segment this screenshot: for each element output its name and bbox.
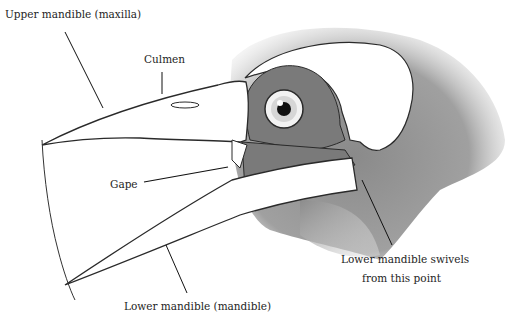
leader-lower-mandible	[166, 245, 187, 293]
upper-mandible	[42, 81, 248, 145]
leader-gape	[144, 167, 228, 182]
bird-skull-illustration	[0, 0, 519, 332]
label-swivel-line1: Lower mandible swivels	[341, 251, 469, 268]
label-culmen: Culmen	[144, 51, 185, 68]
label-upper-mandible: Upper mandible (maxilla)	[5, 6, 141, 23]
label-swivel-line2: from this point	[362, 270, 441, 287]
label-gape: Gape	[110, 176, 138, 193]
nostril	[171, 102, 199, 108]
leader-upper-mandible	[65, 32, 103, 108]
label-lower-mandible: Lower mandible (mandible)	[124, 298, 271, 315]
